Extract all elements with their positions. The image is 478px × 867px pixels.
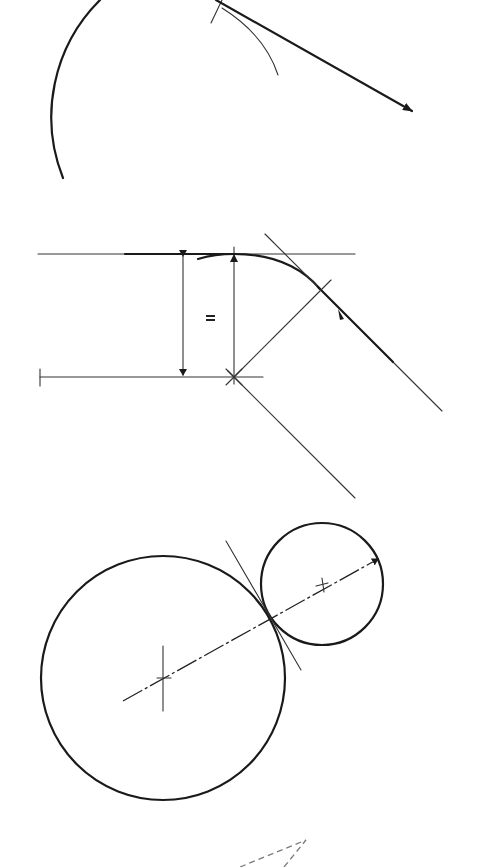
tangent-circles-panel [41,523,383,800]
technical-drawing-figure [0,0,478,867]
inclined-line-heavy-segment [318,287,393,362]
parallel-offset-line [228,371,355,498]
equal-mark [206,315,215,321]
center-line [123,559,378,701]
dashed-triangle-panel [240,840,306,867]
tangent-arrow [216,0,412,111]
common-tangent-line [226,541,301,670]
radius-line [234,280,331,377]
large-circle-center-mark [157,646,171,711]
dashed-edge-2 [284,840,306,867]
fillet-arc [198,254,320,289]
fillet-construction-panel [38,234,442,498]
main-arc [51,0,100,178]
dashed-edge-1 [240,840,306,867]
arc-tangent-panel [51,0,412,178]
dimension-arrow-up [230,254,238,262]
